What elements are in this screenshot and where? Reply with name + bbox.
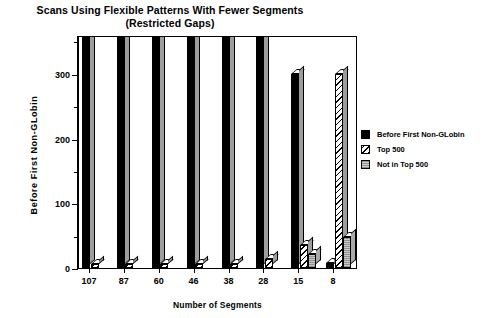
- bar-side-face: [133, 256, 138, 264]
- legend-item-label: Top 500: [377, 145, 405, 154]
- bar-107-series-1: [82, 37, 90, 268]
- bar-side-face: [203, 256, 208, 264]
- x-axis-tick-label: 8: [313, 276, 353, 286]
- bar-46-series-1: [187, 37, 195, 268]
- bar-front-face: [160, 264, 168, 268]
- bar-chart: Scans Using Flexible Patterns With Fewer…: [0, 0, 485, 318]
- bar-front-face: [291, 74, 299, 268]
- legend-item: Top 500: [361, 142, 465, 157]
- bar-front-face: [230, 264, 238, 268]
- bar-side-face: [316, 246, 321, 264]
- bar-38-series-2: [230, 264, 238, 268]
- legend-item: Before First Non-GLobin: [361, 127, 465, 142]
- x-axis-tick: [333, 269, 334, 273]
- x-axis-tick: [124, 269, 125, 273]
- bar-front-face: [335, 74, 343, 268]
- bar-8-series-1: [326, 263, 334, 268]
- bar-28-series-1: [256, 37, 264, 268]
- bar-front-face: [222, 37, 230, 268]
- bar-front-face: [117, 37, 125, 268]
- diagonal-hatch-swatch: [361, 145, 370, 154]
- bar-front-face: [195, 264, 203, 268]
- bar-side-face: [125, 37, 130, 264]
- bar-front-face: [300, 245, 308, 268]
- bar-front-face: [152, 37, 160, 268]
- plot-area: [78, 36, 357, 269]
- bar-front-face: [256, 37, 264, 268]
- bar-87-series-1: [117, 37, 125, 268]
- x-axis-tick: [298, 269, 299, 273]
- legend-item: Not in Top 500: [361, 157, 465, 172]
- bar-15-series-3: [308, 254, 316, 268]
- bar-side-face: [264, 37, 269, 264]
- bar-46-series-2: [195, 264, 203, 268]
- chart-legend: Before First Non-GLobinTop 500Not in Top…: [361, 127, 465, 172]
- bar-side-face: [195, 37, 200, 264]
- bar-87-series-2: [125, 264, 133, 268]
- y-axis-tick-label: 100: [24, 199, 70, 209]
- bar-8-series-2: [335, 74, 343, 268]
- legend-item-label: Before First Non-GLobin: [377, 130, 465, 139]
- bar-front-face: [343, 237, 351, 268]
- bar-front-face: [326, 263, 334, 268]
- bar-front-face: [82, 37, 90, 268]
- bar-front-face: [125, 264, 133, 268]
- bar-38-series-1: [222, 37, 230, 268]
- solid-black-swatch: [361, 130, 370, 139]
- bar-front-face: [187, 37, 195, 268]
- y-axis-tick-labels: 0100200300: [20, 0, 70, 318]
- legend-item-label: Not in Top 500: [377, 160, 428, 169]
- bar-side-face: [299, 66, 304, 264]
- x-axis-tick: [89, 269, 90, 273]
- bar-60-series-1: [152, 37, 160, 268]
- bar-side-face: [273, 251, 278, 264]
- bar-front-face: [91, 264, 99, 268]
- bar-side-face: [168, 256, 173, 264]
- light-gray-swatch: [361, 160, 370, 169]
- bar-8-series-3: [343, 237, 351, 268]
- bar-front-face: [265, 259, 273, 268]
- bar-28-series-2: [265, 259, 273, 268]
- bar-side-face: [99, 256, 104, 264]
- x-axis-tick: [229, 269, 230, 273]
- bar-60-series-2: [160, 264, 168, 268]
- y-axis-tick-label: 0: [24, 264, 70, 274]
- x-axis-tick: [159, 269, 160, 273]
- bar-side-face: [160, 37, 165, 264]
- bar-15-series-2: [300, 245, 308, 268]
- x-axis-tick: [263, 269, 264, 273]
- y-axis-tick-label: 200: [24, 135, 70, 145]
- bar-side-face: [90, 37, 95, 264]
- x-axis-title: Number of Segments: [78, 300, 357, 310]
- bar-side-face: [351, 229, 356, 264]
- bar-side-face: [238, 256, 243, 264]
- bar-side-face: [230, 37, 235, 264]
- bar-107-series-2: [91, 264, 99, 268]
- x-axis-tick: [194, 269, 195, 273]
- y-axis-tick-label: 300: [24, 70, 70, 80]
- plot-bars-container: [79, 37, 356, 268]
- bar-front-face: [308, 254, 316, 268]
- bar-15-series-1: [291, 74, 299, 268]
- y-axis-tick: [72, 269, 78, 270]
